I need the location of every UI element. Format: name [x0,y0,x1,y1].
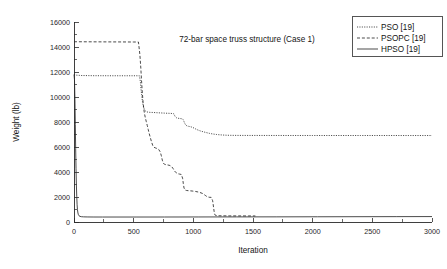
line-chart: 0200040006000800010000120001400016000 05… [0,0,447,269]
chart-figure: 0200040006000800010000120001400016000 05… [0,0,447,269]
y-tick-label: 8000 [54,118,70,127]
y-tick-label: 0 [66,218,70,227]
y-axis-title: Weight (lb) [12,102,21,142]
x-tick-label: 500 [128,227,140,236]
y-tick-label: 2000 [54,193,70,202]
x-tick-label: 1000 [185,227,201,236]
x-axis-title: Iteration [238,246,268,255]
legend-label-2[interactable]: HPSO [19] [381,45,420,54]
x-tick-label: 0 [72,227,76,236]
y-tick-label: 16000 [50,18,70,27]
legend-label-0[interactable]: PSO [19] [381,23,414,32]
x-tick-label: 2500 [364,227,380,236]
y-tick-label: 4000 [54,168,70,177]
y-tick-label: 10000 [50,93,70,102]
x-tick-label: 1500 [245,227,261,236]
chart-title: 72-bar space truss structure (Case 1) [179,35,315,44]
y-tick-label: 12000 [50,68,70,77]
chart-legend[interactable]: PSO [19]PSOPC [19]HPSO [19] [352,16,442,56]
y-tick-label: 6000 [54,143,70,152]
y-tick-label: 14000 [50,43,70,52]
legend-label-1[interactable]: PSOPC [19] [381,34,426,43]
x-tick-label: 3000 [424,227,440,236]
x-tick-label: 2000 [305,227,321,236]
